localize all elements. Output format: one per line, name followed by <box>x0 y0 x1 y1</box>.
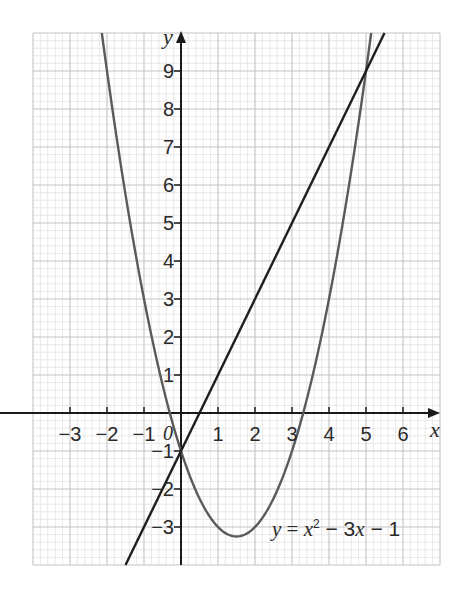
y-tick-label: 3 <box>163 288 174 310</box>
equation-label: y = x2 − 3x − 1 <box>270 517 400 541</box>
x-tick-label: 6 <box>397 423 408 445</box>
x-tick-label: 1 <box>212 423 223 445</box>
y-tick-label: −3 <box>151 516 174 538</box>
x-tick-label: 5 <box>360 423 371 445</box>
x-tick-label: 3 <box>286 423 297 445</box>
x-axis-label: x <box>429 417 440 442</box>
x-tick-label: −2 <box>96 423 119 445</box>
equation-y: y <box>270 517 282 541</box>
equation-term: − 3 <box>320 517 356 540</box>
y-tick-label: 5 <box>163 212 174 234</box>
x-tick-label: 4 <box>323 423 334 445</box>
equation-equals: = <box>281 517 303 541</box>
y-tick-label: 4 <box>163 250 174 272</box>
y-tick-label: 8 <box>163 98 174 120</box>
chart-plot: −3−2−1123456−3−2−1123456789 y x 0 y = x2… <box>0 0 471 592</box>
equation-constant: − 1 <box>365 517 401 540</box>
y-tick-label: −2 <box>151 478 174 500</box>
y-tick-label: 7 <box>163 136 174 158</box>
y-tick-label: 9 <box>163 60 174 82</box>
grid-major <box>33 33 440 565</box>
y-tick-label: 2 <box>163 326 174 348</box>
y-axis-label: y <box>161 24 173 49</box>
y-tick-label: 1 <box>163 364 174 386</box>
x-tick-label: 2 <box>249 423 260 445</box>
axes <box>0 31 440 565</box>
origin-label: 0 <box>163 422 173 444</box>
x-tick-label: −3 <box>59 423 82 445</box>
y-tick-label: 6 <box>163 174 174 196</box>
